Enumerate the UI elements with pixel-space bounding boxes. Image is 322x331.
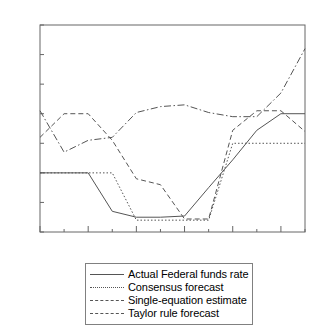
legend-item: Single-equation estimate (90, 293, 247, 306)
legend-label: Actual Federal funds rate (124, 268, 248, 280)
legend-label: Taylor rule forecast (124, 307, 219, 319)
legend-item: Taylor rule forecast (90, 306, 247, 319)
legend-item: Consensus forecast (90, 280, 247, 293)
legend-line-icon (90, 281, 124, 293)
series-line (40, 111, 305, 219)
series-line (40, 143, 305, 220)
plot-frame (40, 25, 305, 232)
legend-item: Actual Federal funds rate (90, 267, 247, 280)
line-chart: Actual Federal funds rateConsensus forec… (0, 0, 322, 331)
legend-line-icon (90, 294, 124, 306)
legend-label: Single-equation estimate (124, 294, 247, 306)
legend-line-icon (90, 307, 124, 319)
chart-legend: Actual Federal funds rateConsensus forec… (85, 263, 253, 325)
series-line (40, 49, 305, 153)
legend-label: Consensus forecast (124, 281, 223, 293)
legend-list: Actual Federal funds rateConsensus forec… (86, 264, 252, 322)
legend-line-icon (90, 268, 124, 280)
